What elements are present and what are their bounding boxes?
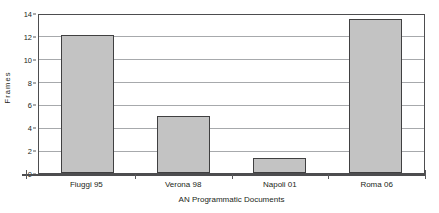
bar: [157, 116, 210, 173]
x-axis-tick-mark: [328, 174, 329, 179]
y-axis-tick-mark: [33, 82, 36, 83]
x-axis-tick-label: Napoli 01: [232, 180, 329, 193]
y-axis-tick-labels: 02468101214: [14, 14, 36, 174]
bar-slot: [135, 15, 231, 173]
bar: [349, 19, 402, 173]
y-axis-tick-mark: [33, 105, 36, 106]
plot-area: [38, 14, 425, 174]
x-axis-tick-mark: [135, 174, 136, 179]
y-axis-tick-label: 14: [24, 10, 32, 19]
bar: [253, 158, 306, 173]
y-axis-tick-mark: [33, 151, 36, 152]
x-axis-tick-start: [26, 170, 27, 179]
y-axis-tick-label: 8: [28, 78, 32, 87]
bar-chart: Frames 02468101214 Fiuggi 95Verona 98Nap…: [0, 0, 439, 213]
y-axis-tick-mark: [33, 59, 36, 60]
y-axis-tick-label: 4: [28, 124, 32, 133]
y-axis-tick-label: 10: [24, 55, 32, 64]
y-axis-title-label: Frames: [3, 71, 12, 103]
y-axis-tick-mark: [33, 36, 36, 37]
bar-slot: [232, 15, 328, 173]
bar-slot: [39, 15, 135, 173]
x-axis-tick-label: Roma 06: [328, 180, 425, 193]
bar-slot: [328, 15, 424, 173]
y-axis-tick-label: 12: [24, 32, 32, 41]
y-axis-tick-mark: [33, 14, 36, 15]
bar: [61, 35, 114, 173]
x-axis-tick-label: Fiuggi 95: [38, 180, 135, 193]
y-axis-tick-label: 6: [28, 101, 32, 110]
x-axis-tick-labels: Fiuggi 95Verona 98Napoli 01Roma 06: [38, 180, 425, 193]
x-axis-tick-end: [425, 170, 426, 179]
x-axis-tick-mark: [232, 174, 233, 179]
x-axis-title: AN Programmatic Documents: [38, 195, 425, 204]
y-axis-tick-mark: [33, 128, 36, 129]
bars-container: [39, 15, 424, 173]
y-axis-tick-label: 2: [28, 147, 32, 156]
y-axis-title: Frames: [0, 0, 14, 174]
x-axis-tick-label: Verona 98: [135, 180, 232, 193]
